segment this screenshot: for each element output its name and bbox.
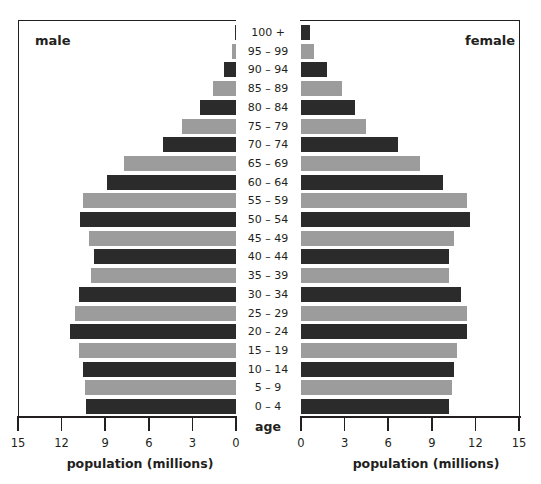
female-x-axis-line bbox=[300, 416, 521, 418]
male-bar bbox=[80, 212, 236, 227]
age-group-label: 70 – 74 bbox=[236, 137, 300, 152]
female-axis-tick bbox=[344, 416, 346, 431]
female-bar bbox=[301, 324, 467, 339]
male-bar bbox=[91, 268, 236, 283]
female-bar bbox=[301, 137, 398, 152]
male-bar bbox=[83, 193, 236, 208]
female-bar bbox=[301, 175, 443, 190]
female-axis-tick-label: 0 bbox=[289, 436, 313, 450]
female-bar bbox=[301, 362, 454, 377]
male-axis-tick-label: 0 bbox=[224, 436, 248, 450]
male-bar bbox=[224, 62, 236, 77]
male-bar bbox=[75, 306, 236, 321]
male-axis-tick-label: 3 bbox=[180, 436, 204, 450]
male-axis-tick bbox=[104, 416, 106, 431]
male-axis-tick bbox=[192, 416, 194, 431]
male-bar bbox=[124, 156, 236, 171]
male-bar bbox=[107, 175, 236, 190]
age-group-label: 25 – 29 bbox=[236, 306, 300, 321]
female-bar bbox=[301, 156, 420, 171]
male-bar bbox=[85, 380, 236, 395]
female-bar bbox=[301, 212, 470, 227]
age-group-label: 20 – 24 bbox=[236, 324, 300, 339]
male-bar bbox=[94, 249, 236, 264]
age-group-label: 50 – 54 bbox=[236, 212, 300, 227]
female-bar bbox=[301, 62, 327, 77]
male-bar bbox=[79, 343, 236, 358]
female-axis-tick bbox=[475, 416, 477, 431]
male-bar bbox=[83, 362, 236, 377]
male-label: male bbox=[35, 33, 71, 48]
age-group-label: 10 – 14 bbox=[236, 362, 300, 377]
male-axis-tick-label: 12 bbox=[50, 436, 74, 450]
female-bar bbox=[301, 268, 449, 283]
female-axis-tick bbox=[300, 416, 302, 431]
male-bar bbox=[200, 100, 236, 115]
female-axis-tick bbox=[518, 416, 520, 431]
female-bar bbox=[301, 380, 452, 395]
male-axis-tick bbox=[17, 416, 19, 431]
female-bar bbox=[301, 287, 461, 302]
female-bar bbox=[301, 306, 467, 321]
male-axis-tick bbox=[148, 416, 150, 431]
age-group-label: 95 – 99 bbox=[236, 44, 300, 59]
age-axis-title: age bbox=[236, 419, 300, 434]
male-bar bbox=[89, 231, 236, 246]
age-group-label: 35 – 39 bbox=[236, 268, 300, 283]
female-bar bbox=[301, 193, 467, 208]
female-axis-tick bbox=[431, 416, 433, 431]
age-group-label: 80 – 84 bbox=[236, 100, 300, 115]
male-axis-tick-label: 9 bbox=[93, 436, 117, 450]
male-bar bbox=[182, 119, 236, 134]
male-bar bbox=[70, 324, 236, 339]
female-bar bbox=[301, 343, 457, 358]
age-group-label: 100 + bbox=[236, 25, 300, 40]
age-group-label: 85 – 89 bbox=[236, 81, 300, 96]
female-bar bbox=[301, 44, 314, 59]
female-axis-tick bbox=[387, 416, 389, 431]
female-bar bbox=[301, 231, 454, 246]
age-group-label: 75 – 79 bbox=[236, 119, 300, 134]
age-group-label: 55 – 59 bbox=[236, 193, 300, 208]
male-x-axis-title: population (millions) bbox=[40, 456, 240, 471]
female-bar bbox=[301, 249, 449, 264]
female-axis-tick-label: 15 bbox=[507, 436, 531, 450]
female-bar bbox=[301, 100, 355, 115]
female-axis-tick-label: 3 bbox=[333, 436, 357, 450]
male-bar bbox=[86, 399, 236, 414]
female-label: female bbox=[465, 33, 515, 48]
male-axis-tick-label: 6 bbox=[137, 436, 161, 450]
male-x-axis-line bbox=[18, 416, 236, 418]
female-bar bbox=[301, 25, 310, 40]
female-bar bbox=[301, 119, 366, 134]
age-group-label: 30 – 34 bbox=[236, 287, 300, 302]
male-bar bbox=[163, 137, 236, 152]
female-axis-tick-label: 12 bbox=[463, 436, 487, 450]
age-group-label: 40 – 44 bbox=[236, 249, 300, 264]
female-axis-tick-label: 6 bbox=[376, 436, 400, 450]
age-group-label: 5 – 9 bbox=[236, 380, 300, 395]
male-axis-tick bbox=[61, 416, 63, 431]
age-group-label: 90 – 94 bbox=[236, 62, 300, 77]
male-axis-tick-label: 15 bbox=[6, 436, 30, 450]
age-group-label: 60 – 64 bbox=[236, 175, 300, 190]
male-bar bbox=[79, 287, 236, 302]
female-x-axis-title: population (millions) bbox=[326, 456, 526, 471]
male-bar bbox=[213, 81, 236, 96]
female-axis-tick-label: 9 bbox=[420, 436, 444, 450]
age-group-label: 0 – 4 bbox=[236, 399, 300, 414]
age-group-label: 65 – 69 bbox=[236, 156, 300, 171]
female-bar bbox=[301, 399, 449, 414]
female-bar bbox=[301, 81, 342, 96]
age-group-label: 45 – 49 bbox=[236, 231, 300, 246]
age-group-label: 15 – 19 bbox=[236, 343, 300, 358]
